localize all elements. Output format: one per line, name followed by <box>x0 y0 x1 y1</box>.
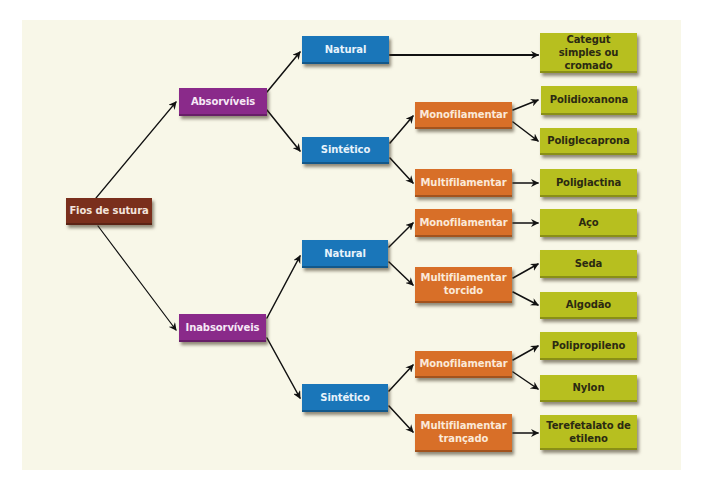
node-abs-sint-monofilamentar: Monofilamentar <box>415 102 512 129</box>
node-polipropileno: Polipropileno <box>540 332 637 360</box>
node-absorviveis-sintetico: Sintético <box>302 137 389 164</box>
node-poliglecaprona: Poliglecaprona <box>540 128 637 155</box>
node-fios-de-sutura: Fios de sutura <box>66 198 152 225</box>
node-absorviveis: Absorvíveis <box>179 88 267 116</box>
node-absorviveis-natural: Natural <box>302 36 389 64</box>
node-abs-sint-multifilamentar: Multifilamentar <box>415 169 512 197</box>
node-inabsorviveis: Inabsorvíveis <box>179 314 266 342</box>
node-categut: Categut simples ou cromado <box>540 33 637 73</box>
node-nylon: Nylon <box>540 375 637 402</box>
arrow-root-inabsorviveis <box>98 226 176 330</box>
node-inabs-nat-multifilamentar-torcido: Multifilamentar torcido <box>415 267 512 303</box>
node-terefetalato-de-etileno: Terefetalato de etileno <box>540 415 637 450</box>
arrow-root-absorviveis <box>96 102 176 198</box>
node-inabs-sint-multifilamentar-trancado: Multifilamentar trançado <box>415 414 512 452</box>
node-inabsorviveis-natural: Natural <box>302 240 388 268</box>
node-polidioxanona: Polidioxanona <box>541 86 637 115</box>
node-algodao: Algodão <box>540 292 637 319</box>
node-inabsorviveis-sintetico: Sintético <box>302 384 388 412</box>
node-poliglactina: Poliglactina <box>540 169 637 197</box>
node-aco: Aço <box>540 209 637 237</box>
node-inabs-sint-monofilamentar: Monofilamentar <box>415 351 512 378</box>
node-inabs-nat-monofilamentar: Monofilamentar <box>415 209 512 237</box>
node-seda: Seda <box>540 250 637 278</box>
